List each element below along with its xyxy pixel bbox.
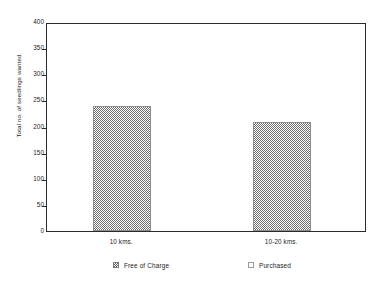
- y-tick-label: 300: [0, 70, 44, 80]
- legend-label: Free of Charge: [124, 262, 169, 269]
- y-tick-label: 400: [0, 18, 44, 28]
- plot-area: [46, 23, 366, 232]
- y-tick-label: 0: [0, 227, 44, 237]
- bar: [93, 106, 151, 231]
- bar-chart-figure: Total no. of seedlings wanted 0501001502…: [0, 0, 385, 282]
- legend-item: Free of Charge: [113, 259, 169, 271]
- y-tick-label: 150: [0, 149, 44, 159]
- y-tick-label: 100: [0, 175, 44, 185]
- chart-legend: Free of ChargePurchased: [0, 259, 385, 273]
- y-tick-label: 250: [0, 96, 44, 106]
- legend-swatch-icon: [248, 262, 254, 268]
- x-tick-label: 10 kms.: [81, 238, 161, 248]
- y-tick-label: 50: [0, 201, 44, 211]
- legend-swatch-icon: [113, 262, 119, 268]
- bar: [253, 122, 311, 231]
- legend-label: Purchased: [259, 262, 291, 269]
- x-tick-label: 10-20 kms.: [241, 238, 321, 248]
- y-tick-label: 200: [0, 123, 44, 133]
- y-tick-label: 350: [0, 44, 44, 54]
- legend-item: Purchased: [248, 259, 291, 271]
